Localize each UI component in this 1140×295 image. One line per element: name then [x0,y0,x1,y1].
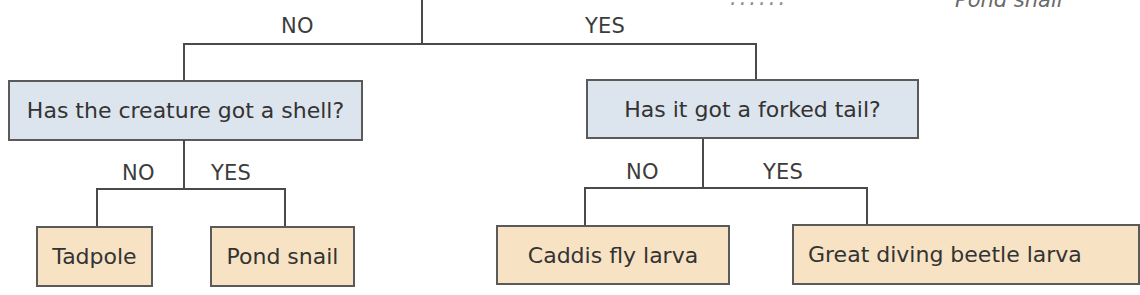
left-question-stem [183,43,185,81]
result-text-great-diving-beetle-larva: Great diving beetle larva [808,242,1082,267]
question-text-shell: Has the creature got a shell? [27,98,344,123]
tadpole-stem [96,188,98,227]
question-box-forked-tail: Has it got a forked tail? [586,79,919,139]
result-box-pond-snail: Pond snail [210,226,355,287]
forked-tail-branch-stem [702,139,704,188]
result-box-tadpole: Tadpole [36,226,153,287]
partial-caption-cut-off: ...... [730,0,788,10]
forked-tail-branch-line [584,187,867,189]
forked-tail-no-label: NO [626,160,659,184]
result-text-pond-snail: Pond snail [227,244,339,269]
root-no-label: NO [281,14,314,38]
beetle-stem [866,187,868,226]
shell-branch-line [96,188,285,190]
result-text-caddis-fly-larva: Caddis fly larva [528,243,698,268]
question-box-shell: Has the creature got a shell? [8,80,363,141]
result-text-tadpole: Tadpole [52,244,136,269]
question-text-forked-tail: Has it got a forked tail? [624,97,880,122]
result-box-caddis-fly-larva: Caddis fly larva [496,225,730,285]
root-yes-label: YES [585,14,625,38]
right-question-stem [755,43,757,81]
result-box-great-diving-beetle-larva: Great diving beetle larva [792,224,1140,285]
caddis-stem [584,187,586,226]
root-branch-line [183,43,756,45]
shell-yes-label: YES [211,161,251,185]
root-stem-line [421,0,423,44]
forked-tail-yes-label: YES [763,160,803,184]
pond-snail-stem [284,188,286,227]
shell-branch-stem [183,140,185,188]
shell-no-label: NO [122,161,155,185]
caption-pond-snail: Pond snail [955,0,1063,12]
